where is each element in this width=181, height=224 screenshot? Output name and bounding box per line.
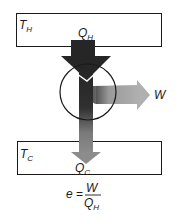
work-arrow [92, 80, 150, 110]
svg-text:e: e [66, 187, 73, 201]
heat-engine-diagram: TH QH W TC QC e = W QH [0, 0, 181, 224]
svg-text:=: = [76, 187, 83, 201]
svg-text:W: W [86, 181, 99, 195]
work-label: W [154, 88, 167, 102]
svg-text:QH: QH [84, 196, 99, 212]
efficiency-formula: e = W QH [66, 181, 101, 212]
